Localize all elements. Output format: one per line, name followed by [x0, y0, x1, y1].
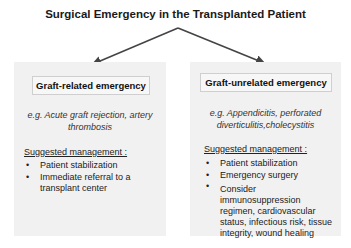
- suggested-management-label: Suggested management :: [24, 147, 127, 157]
- bullet-icon: •: [206, 170, 209, 181]
- graft-unrelated-examples: e.g. Appendicitis, perforated diverticul…: [194, 107, 337, 131]
- bullet-icon: •: [26, 160, 29, 171]
- list-item: •Immediate referral to a transplant cent…: [24, 172, 162, 194]
- bullet-icon: •: [26, 172, 29, 183]
- graft-unrelated-header: Graft-unrelated emergency: [200, 73, 332, 92]
- suggested-management-label: Suggested management :: [204, 144, 307, 154]
- list-item: •Consider immunosuppression regimen, car…: [204, 184, 338, 239]
- management-list: •Patient stabilization •Emergency surger…: [204, 158, 338, 240]
- bullet-icon: •: [206, 158, 209, 169]
- bullet-icon: •: [206, 181, 209, 192]
- arrow-right: [178, 28, 264, 63]
- graft-unrelated-panel: Graft-unrelated emergency e.g. Appendici…: [190, 62, 341, 236]
- list-item: •Patient stabilization: [24, 160, 162, 171]
- graft-related-header: Graft-related emergency: [32, 76, 150, 95]
- list-item: •Patient stabilization: [204, 158, 338, 169]
- management-list: •Patient stabilization •Immediate referr…: [24, 160, 162, 195]
- arrow-left: [93, 28, 178, 64]
- graft-related-panel: Graft-related emergency e.g. Acute graft…: [14, 62, 166, 236]
- list-item: •Emergency surgery: [204, 170, 338, 181]
- graft-related-examples: e.g. Acute graft rejection, artery throm…: [18, 109, 162, 133]
